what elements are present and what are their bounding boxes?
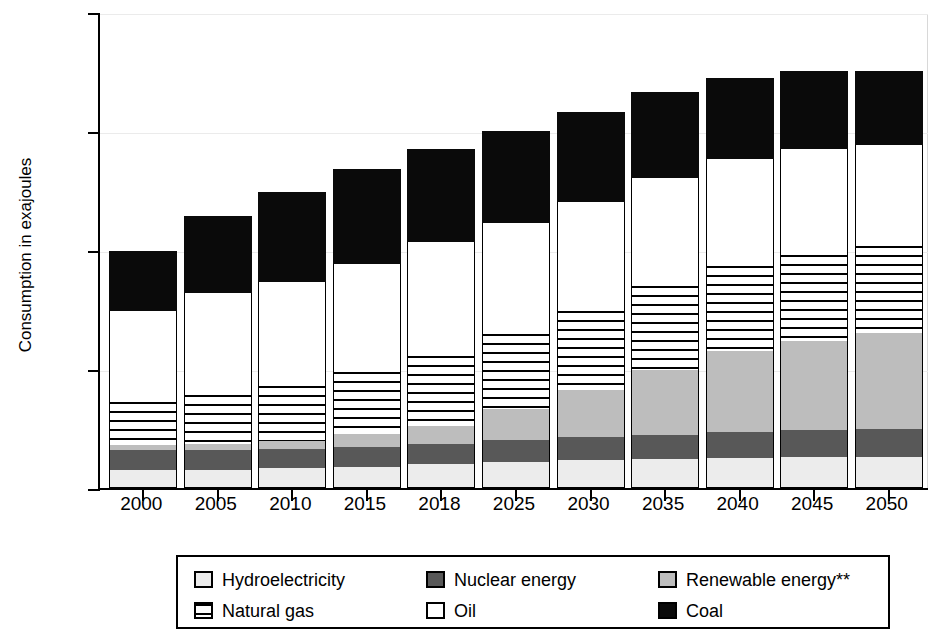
bar-segment-2035-coal	[631, 92, 699, 178]
bar-segment-2005-nuclear-energy	[184, 449, 252, 470]
legend: HydroelectricityNuclear energyRenewable …	[176, 555, 890, 629]
bar-segment-2000-natural-gas	[109, 401, 177, 445]
bar-segment-2005-natural-gas	[184, 394, 252, 444]
x-axis-tick	[515, 490, 517, 501]
bar-segment-2035-oil	[631, 177, 699, 286]
bar-segment-2030-natural-gas	[557, 310, 625, 390]
bar-segment-2018-renewable-energy	[407, 425, 475, 444]
plot-area	[98, 14, 928, 490]
x-axis-tick-label-2050: 2050	[852, 494, 922, 514]
bar-2025	[482, 132, 550, 488]
bar-segment-2000-nuclear-energy	[109, 449, 177, 470]
bar-segment-2035-renewable-energy	[631, 369, 699, 435]
bar-segment-2030-coal	[557, 112, 625, 202]
bar-segment-2040-oil	[706, 158, 774, 266]
bar-segment-2045-hydroelectricity	[780, 456, 848, 488]
stacked-bar-chart: Consumption in exajoules 0200400600800 2…	[0, 0, 938, 637]
bar-segment-2030-nuclear-energy	[557, 436, 625, 460]
bar-segment-2018-oil	[407, 241, 475, 356]
bar-segment-2005-oil	[184, 292, 252, 395]
bar-segment-2030-hydroelectricity	[557, 459, 625, 488]
bar-2000	[109, 252, 177, 488]
bar-segment-2018-nuclear-energy	[407, 443, 475, 464]
bar-segment-2010-coal	[258, 192, 326, 282]
bar-2045	[780, 72, 848, 488]
renew-swatch-icon	[658, 571, 677, 588]
x-axis-tick	[217, 490, 219, 501]
bar-segment-2025-oil	[482, 222, 550, 334]
legend-item-coal[interactable]: Coal	[658, 602, 878, 620]
legend-item-renewable-energy[interactable]: Renewable energy**	[658, 571, 878, 589]
x-axis-tick-label-2015: 2015	[330, 494, 400, 514]
bar-segment-2025-nuclear-energy	[482, 439, 550, 461]
bar-segment-2025-natural-gas	[482, 333, 550, 410]
bar-segment-2025-coal	[482, 131, 550, 224]
x-axis-tick-label-2010: 2010	[255, 494, 325, 514]
gas-swatch-icon	[194, 602, 213, 619]
x-axis-tick-label-2018: 2018	[404, 494, 474, 514]
bar-segment-2035-hydroelectricity	[631, 458, 699, 488]
bar-2005	[184, 217, 252, 488]
bar-2030	[557, 113, 625, 488]
y-axis-title: Consumption in exajoules	[16, 95, 36, 415]
nuclear-swatch-icon	[426, 571, 445, 588]
bar-2018	[407, 150, 475, 488]
y-axis-tick	[88, 370, 100, 372]
bar-segment-2010-nuclear-energy	[258, 448, 326, 468]
legend-label: Coal	[686, 602, 723, 620]
bar-segment-2050-hydroelectricity	[855, 456, 923, 488]
bar-2035	[631, 93, 699, 488]
bar-segment-2050-coal	[855, 71, 923, 145]
y-axis-tick	[88, 132, 100, 134]
legend-label: Oil	[454, 602, 476, 620]
legend-item-oil[interactable]: Oil	[426, 602, 658, 620]
bar-segment-2025-hydroelectricity	[482, 461, 550, 488]
coal-swatch-icon	[658, 602, 677, 619]
bar-segment-2045-renewable-energy	[780, 340, 848, 430]
x-axis-tick	[142, 490, 144, 501]
bar-segment-2010-renewable-energy	[258, 440, 326, 449]
bar-segment-2015-natural-gas	[333, 371, 401, 434]
bar-segment-2045-nuclear-energy	[780, 429, 848, 457]
bar-segment-2045-oil	[780, 148, 848, 254]
bar-segment-2015-oil	[333, 263, 401, 372]
legend-grid: HydroelectricityNuclear energyRenewable …	[194, 564, 878, 626]
hydro-swatch-icon	[194, 571, 213, 588]
bar-2010	[258, 193, 326, 488]
x-axis-tick-label-2040: 2040	[703, 494, 773, 514]
bar-segment-2040-renewable-energy	[706, 350, 774, 432]
x-axis-tick	[291, 490, 293, 501]
bar-segment-2018-coal	[407, 149, 475, 242]
bar-segment-2030-renewable-energy	[557, 389, 625, 438]
bar-segment-2000-oil	[109, 310, 177, 402]
y-axis-tick	[88, 13, 100, 15]
legend-label: Hydroelectricity	[222, 571, 345, 589]
legend-item-natural-gas[interactable]: Natural gas	[194, 602, 426, 620]
bar-segment-2010-oil	[258, 281, 326, 386]
bar-segment-2050-nuclear-energy	[855, 428, 923, 458]
x-axis-tick	[888, 490, 890, 501]
legend-item-hydroelectricity[interactable]: Hydroelectricity	[194, 571, 426, 589]
y-axis-tick	[88, 489, 100, 491]
bar-segment-2005-hydroelectricity	[184, 469, 252, 488]
x-axis-tick-label-2035: 2035	[628, 494, 698, 514]
x-axis-tick	[440, 490, 442, 501]
bar-segment-2015-coal	[333, 169, 401, 264]
x-axis-tick	[739, 490, 741, 501]
legend-item-nuclear-energy[interactable]: Nuclear energy	[426, 571, 658, 589]
x-axis-tick	[366, 490, 368, 501]
bar-2050	[855, 72, 923, 489]
bar-segment-2030-oil	[557, 201, 625, 311]
bar-segment-2000-hydroelectricity	[109, 469, 177, 488]
gridline	[100, 14, 928, 15]
bar-segment-2010-hydroelectricity	[258, 467, 326, 488]
bar-segment-2025-renewable-energy	[482, 408, 550, 440]
plot-frame-right	[927, 14, 928, 488]
bar-segment-2018-natural-gas	[407, 355, 475, 426]
bar-segment-2015-renewable-energy	[333, 433, 401, 447]
bar-segment-2045-coal	[780, 71, 848, 149]
bar-segment-2050-natural-gas	[855, 245, 923, 333]
bar-segment-2015-hydroelectricity	[333, 466, 401, 488]
x-axis-tick-label-2005: 2005	[181, 494, 251, 514]
bar-segment-2040-coal	[706, 78, 774, 159]
